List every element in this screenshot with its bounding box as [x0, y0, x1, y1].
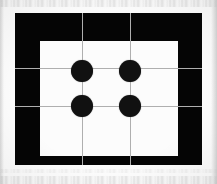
dot-top-right: [119, 60, 141, 82]
black-frame: [15, 13, 202, 165]
scan-edge-shadow-right: [211, 0, 217, 184]
dot-bottom-right: [119, 95, 141, 117]
calibration-target-image: [0, 0, 217, 184]
grid-line-vertical-1: [82, 13, 83, 165]
grid-line-horizontal-1: [15, 68, 202, 69]
scan-edge-shadow-left: [0, 0, 4, 184]
grid-line-vertical-2: [130, 13, 131, 165]
dot-top-left: [71, 60, 93, 82]
dot-bottom-left: [71, 95, 93, 117]
grid-line-horizontal-2: [15, 106, 202, 107]
white-panel: [40, 41, 178, 156]
